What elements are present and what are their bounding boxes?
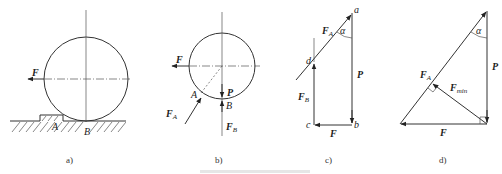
caption-c: c) bbox=[325, 155, 332, 165]
force-fmin-label: Fmin bbox=[449, 82, 468, 95]
panel-d: P F FA Fmin α d) bbox=[400, 11, 499, 165]
force-fb-label: FB bbox=[225, 121, 238, 134]
right-angle-mark-fmin bbox=[428, 87, 437, 92]
caption-d: d) bbox=[439, 155, 447, 165]
angle-alpha-label: α bbox=[476, 25, 482, 36]
vertex-a-label: a bbox=[354, 4, 359, 15]
force-fa-label: FA bbox=[419, 69, 432, 82]
panel-b: F FA A P B FB b) bbox=[165, 12, 260, 165]
point-b-label: B bbox=[226, 100, 232, 111]
force-p-label: P bbox=[357, 69, 364, 80]
caption-b: b) bbox=[215, 155, 223, 165]
force-fa-vector bbox=[400, 12, 486, 124]
force-fb-label: FB bbox=[297, 91, 310, 104]
vertex-d-label: d bbox=[306, 55, 312, 66]
force-fa-label: FA bbox=[321, 25, 334, 38]
force-f-label: F bbox=[31, 67, 39, 78]
figure-canvas: F A B a) bbox=[0, 0, 502, 174]
weight-p-label: P bbox=[227, 87, 234, 98]
angle-alpha-label: α bbox=[340, 25, 346, 36]
line-of-action-a bbox=[201, 66, 222, 93]
force-f-label: F bbox=[175, 54, 183, 65]
panel-c: P F FB FA α a b c d c) bbox=[296, 4, 364, 165]
vertex-c-label: c bbox=[306, 119, 311, 130]
figure-caption-faint bbox=[200, 170, 310, 173]
point-a-label: A bbox=[190, 89, 198, 100]
force-fa-arrow bbox=[185, 98, 201, 124]
panel-a: F A B a) bbox=[10, 10, 130, 165]
force-p-label: P bbox=[492, 61, 499, 72]
caption-a: a) bbox=[66, 155, 73, 165]
point-b-label: B bbox=[84, 126, 90, 137]
force-fa-label: FA bbox=[165, 108, 178, 121]
ground-step-outline bbox=[10, 115, 126, 121]
vertex-b-label: b bbox=[354, 119, 359, 130]
force-f-label: F bbox=[329, 128, 337, 139]
ground-hatching bbox=[12, 122, 126, 132]
force-f-label: F bbox=[439, 127, 447, 138]
point-a-label: A bbox=[51, 121, 59, 132]
